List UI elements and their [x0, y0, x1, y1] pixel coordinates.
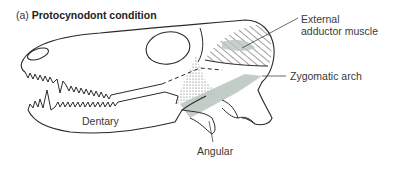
label-dentary: Dentary	[82, 115, 119, 127]
label-angular: Angular	[197, 145, 233, 157]
nostril	[26, 46, 50, 63]
label-external-adductor: External adductor muscle	[301, 13, 378, 37]
label-zygomatic-arch: Zygomatic arch	[290, 70, 362, 82]
leader-angular	[209, 121, 213, 142]
orbit	[144, 28, 193, 67]
